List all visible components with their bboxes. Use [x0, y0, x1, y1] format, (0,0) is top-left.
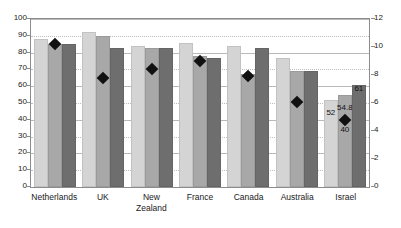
category-label: UK [79, 190, 128, 226]
category-label-line: Netherlands [30, 192, 79, 203]
right-axis-tick-mark [371, 102, 375, 103]
bar-group [128, 19, 176, 187]
right-axis-tick-label: 10 [374, 42, 398, 50]
bar [179, 43, 193, 187]
category-label-line: Israel [321, 192, 370, 203]
data-label: 61 [354, 85, 363, 93]
bar [241, 74, 255, 187]
bar [131, 46, 145, 187]
category-label-line: Australia [273, 192, 322, 203]
bar [96, 36, 110, 187]
data-label: 52 [326, 109, 335, 117]
left-axis-tick-label: 60 [3, 81, 27, 89]
left-axis-tick-label: 20 [3, 148, 27, 156]
right-axis-tick-mark [371, 158, 375, 159]
right-axis-tick-mark [371, 46, 375, 47]
left-axis-tick-label: 100 [3, 14, 27, 22]
bar-group [79, 19, 127, 187]
bar-group [272, 19, 320, 187]
bar-groups: 5254.86140 [31, 19, 369, 187]
category-label-line: Zealand [127, 203, 176, 214]
right-axis-tick-mark [371, 18, 375, 19]
left-axis-tick-label: 80 [3, 48, 27, 56]
left-axis-tick-label: 10 [3, 165, 27, 173]
right-axis-tick-mark [371, 130, 375, 131]
bar: 54.8 [338, 95, 352, 187]
right-axis-tick-label: 0 [374, 182, 398, 190]
left-axis-tick-label: 70 [3, 64, 27, 72]
bar [82, 32, 96, 187]
category-label-line: France [176, 192, 225, 203]
bar-group [176, 19, 224, 187]
bar [276, 58, 290, 187]
bar [62, 44, 76, 187]
right-axis-tick-label: 6 [374, 98, 398, 106]
category-label: Canada [224, 190, 273, 226]
plot-area: 5254.86140 [30, 18, 370, 188]
category-label: Netherlands [30, 190, 79, 226]
plot-inner: 5254.86140 [31, 19, 369, 187]
left-axis-tick-label: 90 [3, 31, 27, 39]
bar [255, 48, 269, 187]
category-axis: NetherlandsUKNewZealandFranceCanadaAustr… [30, 190, 370, 226]
bar [207, 58, 221, 187]
bar: 52 [324, 100, 338, 187]
right-axis-tick-label: 2 [374, 154, 398, 162]
bar [304, 71, 318, 187]
left-axis-tick-label: 50 [3, 98, 27, 106]
bar-group: 5254.86140 [321, 19, 369, 187]
category-label: France [176, 190, 225, 226]
left-axis-tick-label: 30 [3, 132, 27, 140]
bar [290, 71, 304, 187]
right-axis-tick-label: 4 [374, 126, 398, 134]
right-axis-tick-label: 8 [374, 70, 398, 78]
data-label: 40 [340, 126, 349, 134]
left-axis-tick-label: 0 [3, 182, 27, 190]
bar [48, 44, 62, 187]
bar [227, 46, 241, 187]
category-label-line: Canada [224, 192, 273, 203]
category-label: Australia [273, 190, 322, 226]
category-label-line: New [127, 192, 176, 203]
category-label: NewZealand [127, 190, 176, 226]
category-label-line: UK [79, 192, 128, 203]
bar-chart: 1009080706050403020100 121086420 5254.86… [0, 0, 401, 228]
bar [110, 48, 124, 187]
data-label: 54.8 [337, 104, 353, 112]
bar [193, 56, 207, 187]
right-axis-tick-mark [371, 186, 375, 187]
bar-group [224, 19, 272, 187]
left-axis-tick-label: 40 [3, 115, 27, 123]
bar [159, 48, 173, 187]
category-label: Israel [321, 190, 370, 226]
bar [34, 39, 48, 187]
right-axis-tick-label: 12 [374, 14, 398, 22]
bar-group [31, 19, 79, 187]
bar: 61 [352, 85, 366, 187]
right-axis-tick-mark [371, 74, 375, 75]
